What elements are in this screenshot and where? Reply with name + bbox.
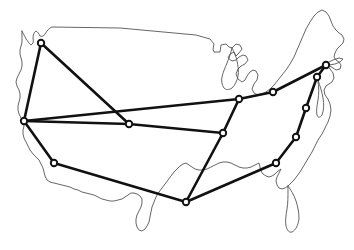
network-node-n13[interactable]	[273, 160, 279, 166]
network-edge-group	[24, 43, 326, 202]
network-node-n1[interactable]	[38, 40, 44, 46]
florida-peninsula-outline	[286, 186, 299, 232]
network-node-n7[interactable]	[236, 96, 242, 102]
network-edge-n6-n7	[223, 99, 239, 133]
network-node-n9[interactable]	[323, 62, 329, 68]
network-edge-n5-n13	[186, 163, 276, 202]
network-edge-n2-n7	[24, 99, 239, 121]
network-node-n5[interactable]	[183, 199, 189, 205]
network-edge-n12-n13	[276, 137, 296, 163]
network-node-n10[interactable]	[314, 74, 320, 80]
network-edge-n7-n8	[239, 92, 273, 99]
network-node-n3[interactable]	[51, 160, 57, 166]
network-edge-n2-n4	[24, 121, 129, 124]
network-node-n8[interactable]	[270, 89, 276, 95]
chesapeake-bay-outline	[317, 80, 324, 117]
map-canvas	[0, 0, 354, 250]
network-edge-n10-n11	[306, 77, 317, 108]
network-edge-n1-n2	[24, 43, 41, 121]
network-edge-n4-n6	[129, 124, 223, 133]
network-node-n11[interactable]	[303, 105, 309, 111]
great-lakes-outline	[222, 48, 239, 90]
network-edge-n5-n6	[186, 133, 223, 202]
network-node-n6[interactable]	[220, 130, 226, 136]
network-node-n4[interactable]	[126, 121, 132, 127]
us-network-map-figure	[0, 0, 354, 250]
network-edge-n11-n12	[296, 108, 306, 137]
network-edge-n2-n3	[24, 121, 54, 163]
network-node-n12[interactable]	[293, 134, 299, 140]
network-node-n2[interactable]	[21, 118, 27, 124]
